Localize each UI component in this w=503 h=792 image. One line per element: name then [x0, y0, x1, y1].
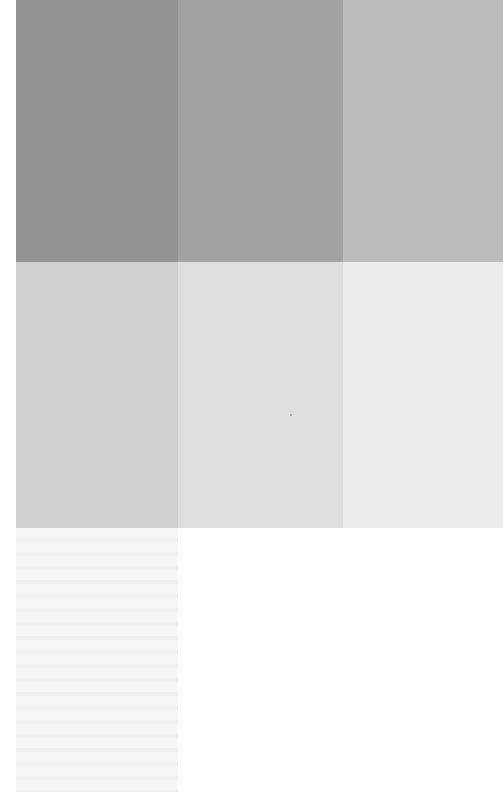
swatch-r0-c0: [16, 0, 178, 262]
swatch-r2-c1: [178, 528, 343, 792]
swatch-r1-c0: [16, 262, 178, 528]
speck-mark: [290, 414, 292, 416]
swatch-r0-c1: [178, 0, 343, 262]
swatch-r2-c2: [343, 528, 503, 792]
swatch-r2-c0: [16, 528, 178, 792]
swatch-grid: [16, 0, 503, 792]
swatch-r1-c1: [178, 262, 343, 528]
swatch-r0-c2: [343, 0, 503, 262]
swatch-r1-c2: [343, 262, 503, 528]
